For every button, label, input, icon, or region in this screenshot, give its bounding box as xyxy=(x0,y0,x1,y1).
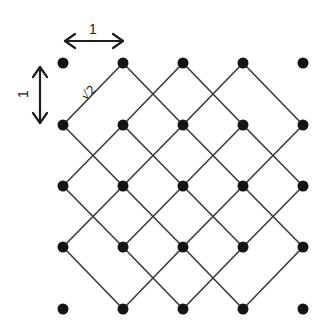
lattice-dot xyxy=(58,120,69,131)
lattice-diagram: 1 1 √2 xyxy=(0,0,326,333)
lattice-dot xyxy=(58,181,69,192)
lattice-dot xyxy=(178,181,189,192)
vertical-spacing-arrow: 1 xyxy=(15,67,47,123)
diagonal-spacing-label: √2 xyxy=(78,82,99,103)
lattice-dot xyxy=(118,181,129,192)
lattice-dot xyxy=(118,120,129,131)
lattice-dot xyxy=(298,58,309,69)
lattice-dot xyxy=(178,242,189,253)
lattice-dot xyxy=(238,304,249,315)
lattice-dot xyxy=(238,242,249,253)
lattice-dot xyxy=(298,304,309,315)
horizontal-spacing-arrow: 1 xyxy=(65,21,123,48)
lattice-dot xyxy=(298,242,309,253)
lattice-dot xyxy=(178,304,189,315)
vertical-spacing-label: 1 xyxy=(15,90,31,98)
lattice-dot xyxy=(58,58,69,69)
lattice-dot xyxy=(118,304,129,315)
lattice-dot xyxy=(178,58,189,69)
lattice-dot xyxy=(298,120,309,131)
lattice-segment xyxy=(243,247,303,309)
horizontal-spacing-label: 1 xyxy=(89,21,97,37)
lattice-dot xyxy=(298,181,309,192)
lattice-dot xyxy=(178,120,189,131)
lattice-dot xyxy=(118,58,129,69)
lattice-dot xyxy=(58,242,69,253)
lattice-dot xyxy=(238,58,249,69)
lattice-dot xyxy=(238,120,249,131)
lattice-dot xyxy=(58,304,69,315)
lattice-segment xyxy=(63,247,123,309)
lattice-segment xyxy=(243,63,303,125)
lattice-dot xyxy=(118,242,129,253)
lattice-dot xyxy=(238,181,249,192)
